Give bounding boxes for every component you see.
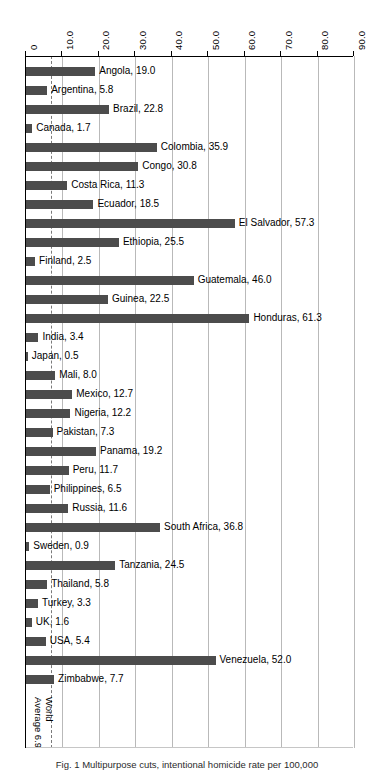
gridline [354,56,355,748]
bar-data-label: Argentina, 5.8 [51,82,113,98]
bar-row: Philippines, 6.5 [26,480,354,499]
bar-row: Ecuador, 18.5 [26,195,354,214]
x-axis-tick [98,51,99,56]
bar-data-label: Thailand, 5.8 [51,576,109,592]
bar [26,143,157,152]
bar-row: Turkey, 3.3 [26,594,354,613]
bar [26,580,47,589]
bar-row: South Africa, 36.8 [26,518,354,537]
bar-data-label: Peru, 11.7 [73,462,118,478]
bar-data-label: Mali, 8.0 [59,367,97,383]
bar-row: Panama, 19.2 [26,442,354,461]
bar-row: Argentina, 5.8 [26,81,354,100]
bar-data-label: Tanzania, 24.5 [119,557,184,573]
x-axis-tick-label: 40.0 [174,31,184,50]
bar-data-label: Brazil, 22.8 [113,101,163,117]
bar-row: Zimbabwe, 7.7 [26,670,354,689]
bar-data-label: Russia, 11.6 [72,500,127,516]
bar-data-label: Philippines, 6.5 [54,481,122,497]
plot-area: WorldAverage 6.9 Angola, 19.0Argentina, … [25,56,353,748]
bar [26,295,108,304]
bar-data-label: Costa Rica, 11.3 [71,177,144,193]
bar [26,523,160,532]
x-axis-tick [280,51,281,56]
bar-data-label: India, 3.4 [42,329,83,345]
bar-row: UK, 1.6 [26,613,354,632]
bar-row: Ethiopia, 25.5 [26,233,354,252]
bar [26,599,38,608]
bar-data-label: Canada, 1.7 [36,120,91,136]
bar [26,675,54,684]
bar-data-label: El Salvador, 57.3 [239,215,315,231]
bar [26,485,50,494]
world-average-label: WorldAverage 6.9 [32,697,53,748]
bar-data-label: Angola, 19.0 [99,63,155,79]
bar-row: El Salvador, 57.3 [26,214,354,233]
bar-row: Mali, 8.0 [26,366,354,385]
x-axis-tick-label: 30.0 [138,31,148,50]
bar-data-label: Congo, 30.8 [142,158,197,174]
bar [26,238,119,247]
x-axis-tick [317,51,318,56]
bar [26,428,53,437]
bar-row: Nigeria, 12.2 [26,404,354,423]
x-axis-tick [25,51,26,56]
bar [26,219,235,228]
bar-row: Thailand, 5.8 [26,575,354,594]
bar-row: Congo, 30.8 [26,157,354,176]
bar-data-label: Finland, 2.5 [39,253,91,269]
bar-data-label: Honduras, 61.3 [253,310,321,326]
world-average-label-line: World [43,697,54,748]
bar [26,314,249,323]
bar-row: Japan, 0.5 [26,347,354,366]
x-axis-line [25,56,353,57]
bar-row: Pakistan, 7.3 [26,423,354,442]
bar [26,656,216,665]
x-axis-tick-label: 10.0 [65,31,75,50]
bar-data-label: Ethiopia, 25.5 [123,234,184,250]
bar-data-label: Turkey, 3.3 [42,595,91,611]
x-axis-tick [353,51,354,56]
bar [26,352,28,361]
x-axis-tick-label: 50.0 [211,31,221,50]
bar-data-label: Zimbabwe, 7.7 [58,671,124,687]
x-axis-tick [61,51,62,56]
plot-bottom-border [26,747,353,748]
bar-data-label: Guatemala, 46.0 [198,272,272,288]
x-axis-tick-label: 20.0 [101,31,111,50]
x-axis-tick [244,51,245,56]
x-axis-tick-label: 60.0 [247,31,257,50]
bar [26,371,55,380]
bar [26,200,93,209]
bar-data-label: Mexico, 12.7 [76,386,133,402]
bar-row: Brazil, 22.8 [26,100,354,119]
bar-row: Venezuela, 52.0 [26,651,354,670]
bar [26,257,35,266]
bar [26,637,46,646]
bar-data-label: Sweden, 0.9 [33,538,89,554]
bar-row: Tanzania, 24.5 [26,556,354,575]
bar-row: India, 3.4 [26,328,354,347]
bar-data-label: Nigeria, 12.2 [74,405,131,421]
bar [26,504,68,513]
x-axis-tick-label: 70.0 [284,31,294,50]
bar-data-label: Guinea, 22.5 [112,291,169,307]
bar [26,561,115,570]
bar [26,276,194,285]
bar [26,409,70,418]
bar-data-label: Colombia, 35.9 [161,139,228,155]
x-axis-tick [207,51,208,56]
x-axis-tick-label: 0 [29,45,39,50]
bar-row: Mexico, 12.7 [26,385,354,404]
bar [26,333,38,342]
x-axis-tick [171,51,172,56]
bar-row: Colombia, 35.9 [26,138,354,157]
x-axis-tick-label: 80.0 [320,31,330,50]
bar-row: Peru, 11.7 [26,461,354,480]
bar [26,67,95,76]
bar [26,124,32,133]
bar-row: Sweden, 0.9 [26,537,354,556]
bar-data-label: Ecuador, 18.5 [97,196,159,212]
bar-data-label: USA, 5.4 [50,633,90,649]
